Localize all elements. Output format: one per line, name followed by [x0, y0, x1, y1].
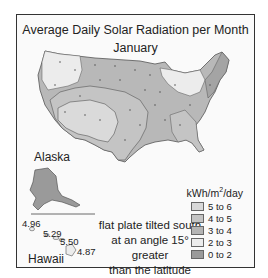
hawaii-value-kauai: 4.96 — [22, 218, 41, 229]
legend-item: 0 to 2 — [191, 249, 247, 261]
hawaii-value-oahu: 5.29 — [43, 228, 62, 239]
legend-item: 2 to 3 — [191, 237, 247, 249]
hawaii-value-maui: 5.50 — [60, 236, 79, 247]
legend-swatch — [191, 238, 204, 247]
note-line-3: than the latitude — [95, 263, 205, 278]
alaska — [30, 168, 80, 210]
legend-item: 5 to 6 — [191, 201, 247, 213]
hawaii-value-big-island: 4.87 — [77, 246, 96, 257]
legend-unit: kWh/m2/day — [177, 186, 247, 199]
legend-swatch — [191, 202, 204, 211]
legend-swatch — [191, 214, 204, 223]
legend-item: 4 to 5 — [191, 213, 247, 225]
hawaii-label: Hawaii — [28, 252, 64, 266]
legend-swatch — [191, 226, 204, 235]
legend: kWh/m2/day 5 to 6 4 to 5 3 to 4 2 to 3 0… — [177, 186, 247, 261]
legend-item: 3 to 4 — [191, 225, 247, 237]
legend-swatch — [191, 250, 204, 259]
alaska-label: Alaska — [34, 150, 70, 164]
